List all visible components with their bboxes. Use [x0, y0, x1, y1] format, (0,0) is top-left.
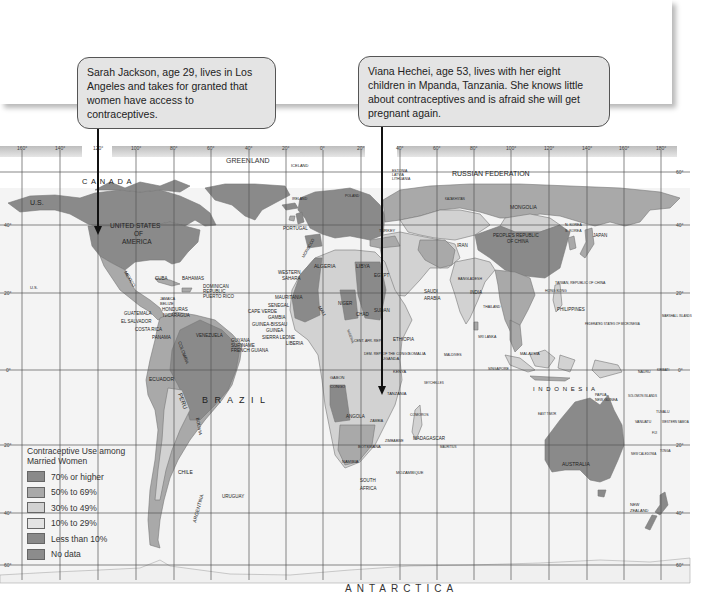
svg-text:80°: 80°: [170, 145, 178, 151]
arrow-down-icon: [378, 386, 386, 395]
svg-text:80°: 80°: [470, 145, 478, 151]
svg-text:VENEZUELA: VENEZUELA: [196, 333, 223, 338]
svg-text:COSTA RICA: COSTA RICA: [135, 327, 162, 332]
svg-text:INDIA: INDIA: [470, 290, 482, 295]
svg-text:180°: 180°: [656, 145, 666, 151]
svg-text:ZAMBIA: ZAMBIA: [370, 419, 384, 423]
svg-text:C A N A D A: C A N A D A: [82, 177, 133, 186]
svg-text:SOUTH: SOUTH: [360, 478, 376, 483]
svg-text:ZIMBABWE: ZIMBABWE: [385, 439, 404, 443]
svg-text:40°: 40°: [676, 510, 684, 516]
svg-text:TUVALU: TUVALU: [656, 410, 670, 414]
svg-text:VANUATU: VANUATU: [635, 420, 652, 424]
svg-text:CONGO: CONGO: [330, 384, 345, 389]
svg-text:FEDERATED STATES OF MICRONESIA: FEDERATED STATES OF MICRONESIA: [585, 322, 640, 326]
svg-text:60°: 60°: [676, 169, 684, 175]
svg-text:60°: 60°: [4, 562, 12, 568]
svg-text:MADAGASCAR: MADAGASCAR: [413, 436, 446, 441]
svg-text:0°: 0°: [678, 367, 683, 373]
svg-text:COMOROS: COMOROS: [410, 413, 429, 417]
callout-text: Sarah Jackson, age 29, lives in Los Ange…: [87, 66, 252, 120]
svg-text:EAST TIMOR: EAST TIMOR: [538, 412, 557, 416]
svg-text:NICARAGUA: NICARAGUA: [163, 313, 190, 318]
svg-text:HONG KONG: HONG KONG: [545, 289, 567, 293]
svg-text:NIGER: NIGER: [338, 301, 353, 306]
svg-text:B R A Z I L: B R A Z I L: [202, 395, 267, 405]
legend-item-10-29: 10% to 29%: [27, 516, 125, 532]
svg-text:N. KOREA: N. KOREA: [565, 223, 582, 227]
svg-text:100°: 100°: [131, 145, 141, 151]
svg-text:PEOPLE'S REPUBLIC: PEOPLE'S REPUBLIC: [493, 233, 539, 238]
svg-text:SIERRA LEONE: SIERRA LEONE: [262, 335, 295, 340]
svg-text:FIJI: FIJI: [652, 431, 657, 435]
svg-text:ANGOLA: ANGOLA: [346, 414, 365, 419]
legend-swatch: [27, 533, 45, 544]
svg-text:BOTSWANA: BOTSWANA: [358, 444, 381, 449]
svg-text:URUGUAY: URUGUAY: [222, 494, 244, 499]
svg-text:GUINEA: GUINEA: [266, 328, 283, 333]
svg-text:RUSSIAN FEDERATION: RUSSIAN FEDERATION: [452, 170, 530, 177]
svg-text:SOMALIA: SOMALIA: [408, 351, 426, 356]
svg-text:CHILE: CHILE: [178, 469, 193, 475]
svg-text:LITHUANIA: LITHUANIA: [392, 177, 411, 181]
callout-pointer: [97, 129, 99, 227]
svg-text:KAZAKHSTAN: KAZAKHSTAN: [445, 197, 465, 201]
legend-swatch: [27, 487, 45, 498]
svg-text:MOZAMBIQUE: MOZAMBIQUE: [396, 470, 424, 475]
svg-text:40°: 40°: [245, 145, 253, 151]
svg-text:20°: 20°: [4, 290, 12, 296]
svg-text:ZEALAND: ZEALAND: [630, 508, 649, 513]
svg-text:PANAMA: PANAMA: [152, 335, 171, 340]
svg-text:BANGLADESH: BANGLADESH: [458, 277, 482, 281]
svg-text:PHILIPPINES: PHILIPPINES: [557, 307, 585, 312]
svg-text:40°: 40°: [676, 222, 684, 228]
svg-text:140°: 140°: [55, 145, 65, 151]
svg-text:POLAND: POLAND: [345, 194, 360, 198]
svg-text:BAHAMAS: BAHAMAS: [182, 276, 204, 281]
legend-swatch: [27, 518, 45, 529]
svg-text:GUINEA-BISSAU: GUINEA-BISSAU: [252, 322, 287, 327]
svg-text:NAURU: NAURU: [638, 370, 651, 374]
legend-item-50-69: 50% to 69%: [27, 485, 125, 501]
svg-text:60°: 60°: [207, 145, 215, 151]
svg-text:IRELAND: IRELAND: [292, 197, 308, 201]
svg-text:SRI LANKA: SRI LANKA: [478, 335, 497, 339]
svg-text:CUBA: CUBA: [155, 276, 168, 281]
svg-text:AMERICA: AMERICA: [122, 238, 152, 245]
svg-text:NEW CALEDONIA: NEW CALEDONIA: [631, 452, 656, 456]
svg-text:GAMBIA: GAMBIA: [268, 315, 286, 320]
svg-text:MARSHALL ISLANDS: MARSHALL ISLANDS: [662, 314, 692, 318]
legend-title: Contraceptive Use among Married Women: [27, 446, 125, 466]
svg-text:LIBERIA: LIBERIA: [286, 341, 303, 346]
svg-text:ECUADOR: ECUADOR: [149, 376, 174, 382]
svg-text:NEW GUINEA: NEW GUINEA: [595, 398, 618, 402]
svg-text:AFRICA: AFRICA: [360, 486, 377, 491]
svg-text:ALGERIA: ALGERIA: [314, 263, 336, 269]
svg-text:CENT. AFR. REP.: CENT. AFR. REP.: [354, 339, 382, 343]
svg-text:20°: 20°: [357, 145, 365, 151]
map-legend: Contraceptive Use among Married Women 70…: [27, 446, 125, 562]
legend-item-70-plus: 70% or higher: [27, 469, 125, 485]
svg-text:0°: 0°: [6, 367, 11, 373]
svg-text:160°: 160°: [619, 145, 629, 151]
svg-text:I N D O N E S I A: I N D O N E S I A: [533, 386, 596, 392]
svg-text:CHAD: CHAD: [356, 312, 370, 317]
svg-text:EL SALVADOR: EL SALVADOR: [121, 319, 152, 324]
svg-text:MAURITANIA: MAURITANIA: [275, 295, 302, 300]
callout-text: Viana Hechei, age 53, lives with her eig…: [368, 65, 583, 119]
svg-text:CAPE VERDE: CAPE VERDE: [248, 309, 277, 314]
svg-text:MAURITIUS: MAURITIUS: [440, 445, 457, 449]
svg-text:OF: OF: [134, 230, 143, 237]
svg-text:WESTERN: WESTERN: [278, 270, 301, 275]
svg-text:SINGAPORE: SINGAPORE: [488, 367, 509, 371]
svg-text:NEW: NEW: [630, 502, 640, 507]
arrow-down-icon: [94, 226, 102, 235]
legend-item-less-10: Less than 10%: [27, 531, 125, 547]
svg-text:40°: 40°: [4, 510, 12, 516]
svg-text:GUATEMALA: GUATEMALA: [124, 311, 151, 316]
svg-text:40°: 40°: [4, 222, 12, 228]
legend-swatch: [27, 502, 45, 513]
svg-text:PORTUGAL: PORTUGAL: [283, 226, 308, 231]
svg-text:SOLOMON ISLANDS: SOLOMON ISLANDS: [628, 394, 657, 398]
svg-text:U.S.: U.S.: [30, 199, 44, 206]
